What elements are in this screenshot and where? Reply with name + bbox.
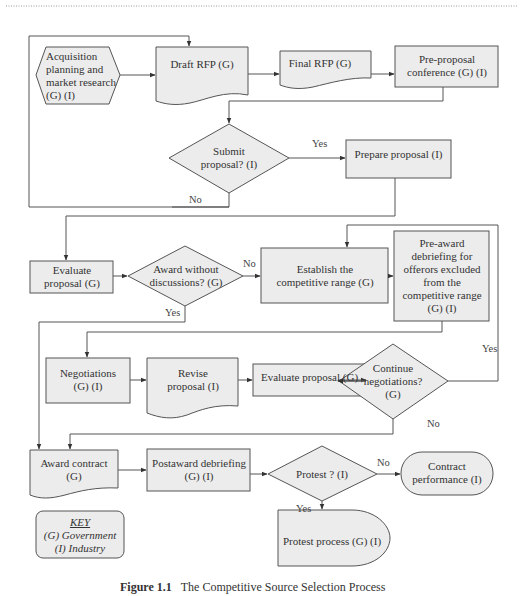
draft-rfp-label: Draft RFP (G) (156, 58, 248, 78)
postaward-debriefing-label: Postaward debriefing (G) (I) (152, 455, 246, 485)
acquisition-label: Acquisition planning and market research… (46, 48, 120, 104)
key-legend: KEY (G) Government (I) Industry (36, 513, 124, 557)
key-industry: (I) Industry (55, 542, 105, 555)
evaluate-proposal-2-label: Evaluate proposal (G) (253, 366, 366, 388)
submit-no-label: No (189, 194, 202, 205)
protest-yes-label: Yes (296, 503, 311, 514)
prepare-proposal-label: Prepare proposal (I) (346, 148, 451, 164)
pre-award-debriefing-label: Pre-award debriefing for offerors exclud… (396, 233, 488, 319)
award-no-label: No (243, 258, 256, 269)
award-contract-label: Award contract (G) (40, 456, 108, 484)
figure-caption: Figure 1.1 The Competitive Source Select… (120, 580, 385, 595)
protest-process-label: Protest process (G) (I) (283, 533, 387, 549)
figure-title: The Competitive Source Selection Process (181, 580, 386, 594)
negotiations-label: Negotiations (G) (I) (52, 365, 124, 395)
final-rfp-label: Final RFP (G) (280, 57, 360, 77)
key-government: (G) Government (44, 529, 116, 542)
contract-performance-label: Contract performance (I) (404, 457, 490, 489)
award-yes-label: Yes (165, 307, 180, 318)
continue-no-label: No (427, 418, 440, 429)
establish-range-label: Establish the competitive range (G) (270, 261, 380, 291)
submit-proposal-label: Submit proposal? (I) (196, 143, 262, 173)
protest-no-label: No (377, 457, 390, 468)
award-without-discussions-label: Award without discussions? (G) (148, 261, 224, 291)
figure-number: Figure 1.1 (120, 580, 172, 594)
pre-proposal-label: Pre-proposal conference (G) (I) (400, 48, 494, 84)
continue-yes-label: Yes (482, 343, 497, 354)
submit-yes-label: Yes (312, 138, 327, 149)
revise-proposal-label: Revise proposal (I) (160, 365, 226, 395)
evaluate-proposal-1-label: Evaluate proposal (G) (36, 262, 108, 292)
protest-label: Protest ? (I) (284, 466, 360, 482)
continue-negotiations-label: Continue negotiations? (G) (355, 366, 431, 396)
key-title: KEY (70, 516, 90, 529)
